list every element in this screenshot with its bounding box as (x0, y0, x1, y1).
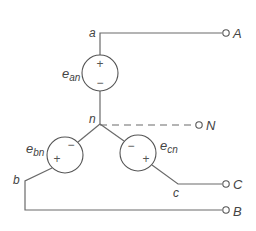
ecn-plus: + (142, 152, 149, 166)
circuit-svg: + − − + − + a n b c A N C B ean ebn ecn (0, 0, 256, 231)
terminal-label-C: C (233, 177, 243, 192)
terminal-label-B: B (233, 204, 242, 219)
label-ebn: ebn (26, 141, 45, 158)
ean-plus: + (96, 57, 103, 71)
node-label-n: n (89, 112, 96, 126)
source-ebn (47, 137, 83, 173)
terminal-C (223, 181, 229, 187)
terminal-B (223, 207, 229, 213)
wye-source-diagram: + − − + − + a n b c A N C B ean ebn ecn (0, 0, 256, 231)
wire-a (100, 33, 222, 55)
wire-n-to-ebn (78, 124, 100, 142)
wire-b (25, 168, 222, 210)
source-ecn (120, 135, 156, 171)
label-ean-main: e (62, 66, 69, 81)
ebn-plus: + (53, 152, 60, 166)
label-ebn-sub: bn (33, 147, 45, 158)
node-label-b: b (13, 173, 20, 187)
label-ecn-sub: cn (167, 144, 178, 155)
ebn-minus: − (67, 138, 74, 152)
terminal-N (196, 122, 202, 128)
ecn-minus: − (127, 139, 134, 153)
terminal-A (223, 30, 229, 36)
label-ebn-main: e (26, 141, 33, 156)
label-ecn-main: e (160, 138, 167, 153)
terminal-label-A: A (232, 26, 242, 41)
terminal-label-N: N (206, 118, 216, 133)
wire-n-to-ecn (100, 124, 124, 141)
ean-minus: − (96, 76, 103, 90)
label-ecn: ecn (160, 138, 178, 155)
label-ean-sub: an (69, 72, 81, 83)
label-ean: ean (62, 66, 81, 83)
node-label-a: a (89, 26, 96, 40)
node-label-c: c (173, 186, 179, 200)
wire-c (152, 165, 222, 184)
